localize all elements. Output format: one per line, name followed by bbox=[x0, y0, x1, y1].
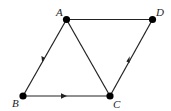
edge-a-c bbox=[67, 20, 111, 97]
edge-a-b bbox=[23, 20, 67, 97]
edge-b-c bbox=[23, 93, 110, 98]
node-label-a: A bbox=[55, 6, 63, 18]
arrow-icon-c-to-d bbox=[126, 56, 129, 63]
edge-c-d bbox=[110, 20, 153, 97]
node-b bbox=[19, 92, 26, 99]
node-label-b: B bbox=[12, 97, 19, 109]
node-label-d: D bbox=[155, 6, 164, 18]
arrow-icon-b-to-c bbox=[61, 93, 67, 98]
node-a bbox=[63, 16, 70, 23]
graph-diagram: A B C D bbox=[0, 0, 171, 111]
node-label-c: C bbox=[113, 98, 121, 110]
